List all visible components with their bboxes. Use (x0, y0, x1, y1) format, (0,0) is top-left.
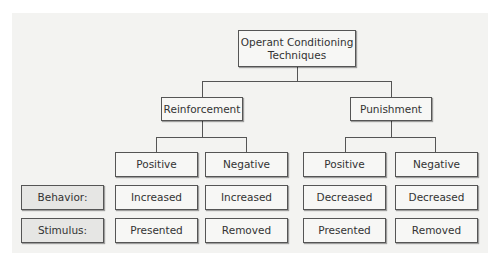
connector-punishment-negative (435, 137, 436, 152)
node-punishment-negative: Negative (395, 152, 478, 177)
connector-reinforcement-positive (156, 137, 157, 152)
node-reinforcement-positive: Positive (115, 152, 198, 177)
cell-stimulus-reinforcement-positive: Presented (115, 218, 198, 243)
root-node: Operant Conditioning Techniques (238, 30, 356, 67)
connector-reinforcement-negative (246, 137, 247, 152)
cell-behavior-punishment-positive: Decreased (303, 185, 386, 210)
root-line1: Operant Conditioning (241, 36, 354, 49)
node-punishment: Punishment (350, 97, 432, 121)
node-punishment-positive: Positive (303, 152, 386, 177)
node-reinforcement-negative: Negative (205, 152, 288, 177)
connector-reinforcement-down (202, 121, 203, 137)
row-label-behavior: Behavior: (21, 185, 104, 210)
cell-behavior-reinforcement-negative: Increased (205, 185, 288, 210)
connector-root-horizontal (202, 81, 392, 82)
node-reinforcement: Reinforcement (161, 97, 243, 121)
cell-behavior-punishment-negative: Decreased (395, 185, 478, 210)
connector-to-punishment (391, 81, 392, 97)
connector-punishment-horizontal (345, 137, 436, 138)
cell-stimulus-punishment-positive: Presented (303, 218, 386, 243)
connector-punishment-positive (345, 137, 346, 152)
root-line2: Techniques (268, 49, 326, 62)
connector-punishment-down (391, 121, 392, 137)
row-label-stimulus: Stimulus: (21, 218, 104, 243)
cell-stimulus-reinforcement-negative: Removed (205, 218, 288, 243)
cell-behavior-reinforcement-positive: Increased (115, 185, 198, 210)
connector-root-down (297, 67, 298, 81)
cell-stimulus-punishment-negative: Removed (395, 218, 478, 243)
connector-to-reinforcement (202, 81, 203, 97)
connector-reinforcement-horizontal (156, 137, 247, 138)
